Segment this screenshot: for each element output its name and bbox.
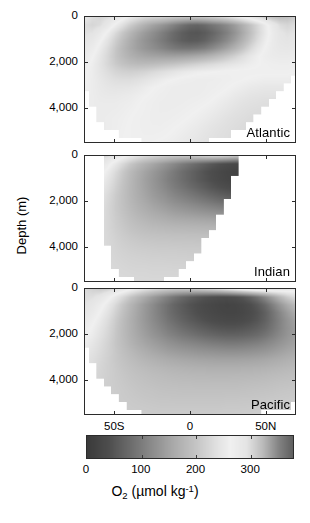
colorbar-label: O2 (µmol kg-1): [0, 483, 310, 501]
x-tick-mark: [114, 411, 115, 415]
oxygen-section-figure: Depth (m) Atlantic Indian Pacific 02,000…: [0, 0, 310, 523]
y-tick-mark: [84, 62, 88, 63]
x-tick-mark: [114, 288, 115, 292]
x-tick-mark: [190, 155, 191, 159]
y-tick-mark: [84, 247, 88, 248]
y-tick-label: 4,000: [26, 373, 78, 385]
x-tick-mark: [190, 16, 191, 20]
x-tick-mark: [266, 278, 267, 282]
x-tick-mark: [266, 288, 267, 292]
panel-label-atlantic: Atlantic: [247, 125, 290, 140]
colorbar-tick-label: 100: [116, 463, 166, 475]
y-tick-mark: [84, 380, 88, 381]
colorbar-tick-mark: [196, 455, 197, 458]
y-tick-label: 0: [26, 148, 78, 160]
y-tick-mark: [292, 334, 296, 335]
x-tick-label: 0: [165, 420, 215, 432]
y-tick-mark: [292, 16, 296, 17]
y-tick-mark: [84, 201, 88, 202]
panel-atlantic: Atlantic: [84, 16, 296, 143]
y-tick-label: 4,000: [26, 101, 78, 113]
x-tick-mark: [114, 16, 115, 20]
y-tick-mark: [292, 380, 296, 381]
colorbar-tick-mark: [251, 455, 252, 458]
y-tick-label: 0: [26, 9, 78, 21]
x-tick-mark: [266, 411, 267, 415]
colorbar-tick-mark: [87, 455, 88, 458]
y-tick-label: 4,000: [26, 240, 78, 252]
heatmap-canvas-indian: [85, 156, 295, 281]
panel-indian: Indian: [84, 155, 296, 282]
y-tick-mark: [84, 155, 88, 156]
y-tick-mark: [292, 288, 296, 289]
y-axis-label: Depth (m): [14, 171, 29, 281]
x-tick-label: 50S: [89, 420, 139, 432]
y-tick-mark: [84, 288, 88, 289]
colorbar-tick-mark: [142, 455, 143, 458]
x-tick-mark: [266, 16, 267, 20]
panel-label-pacific: Pacific: [251, 397, 290, 412]
colorbar-tick-label: 0: [61, 463, 111, 475]
y-tick-mark: [292, 108, 296, 109]
heatmap-canvas-atlantic: [85, 17, 295, 142]
x-tick-mark: [190, 278, 191, 282]
x-tick-mark: [190, 288, 191, 292]
panel-label-indian: Indian: [254, 264, 290, 279]
y-tick-mark: [84, 16, 88, 17]
y-tick-label: 2,000: [26, 55, 78, 67]
colorbar: [86, 435, 294, 459]
heatmap-canvas-pacific: [85, 289, 295, 414]
panel-pacific: Pacific: [84, 288, 296, 415]
x-tick-mark: [266, 155, 267, 159]
y-tick-mark: [292, 155, 296, 156]
colorbar-canvas: [87, 436, 293, 458]
x-tick-mark: [190, 139, 191, 143]
y-tick-label: 0: [26, 281, 78, 293]
x-tick-label: 50N: [241, 420, 291, 432]
colorbar-tick-mark: [196, 436, 197, 439]
colorbar-tick-label: 300: [225, 463, 275, 475]
y-tick-label: 2,000: [26, 194, 78, 206]
x-tick-mark: [114, 155, 115, 159]
colorbar-tick-mark: [87, 436, 88, 439]
x-tick-mark: [266, 139, 267, 143]
y-tick-mark: [292, 62, 296, 63]
x-tick-mark: [190, 411, 191, 415]
y-tick-label: 2,000: [26, 327, 78, 339]
y-tick-mark: [292, 247, 296, 248]
colorbar-tick-mark: [251, 436, 252, 439]
colorbar-tick-label: 200: [170, 463, 220, 475]
y-tick-mark: [292, 201, 296, 202]
y-tick-mark: [84, 108, 88, 109]
colorbar-tick-mark: [142, 436, 143, 439]
x-tick-mark: [114, 139, 115, 143]
y-tick-mark: [84, 334, 88, 335]
x-tick-mark: [114, 278, 115, 282]
